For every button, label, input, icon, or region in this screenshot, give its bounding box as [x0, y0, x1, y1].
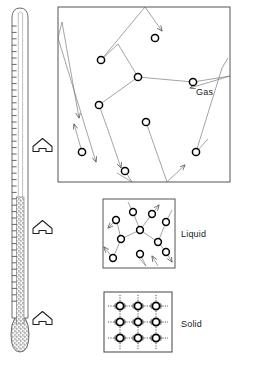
states-of-matter-figure: Gas: [0, 0, 256, 369]
liquid-label: Liquid: [181, 229, 206, 239]
solid-particle: [134, 318, 141, 325]
liquid-particle: [163, 249, 170, 256]
liquid-particle: [113, 217, 120, 224]
gas-container: Gas: [58, 7, 230, 182]
solid-particles: [116, 302, 159, 341]
heat-arrow-solid: [33, 312, 52, 325]
liquid-particle: [149, 211, 156, 218]
liquid-particle: [118, 236, 125, 243]
solid-particle: [134, 302, 141, 309]
gas-label: Gas: [196, 87, 213, 97]
gas-particle: [97, 56, 104, 63]
gas-particle: [121, 167, 128, 174]
solid-particle: [152, 318, 159, 325]
liquid-particle: [163, 219, 170, 226]
solid-particle: [152, 302, 159, 309]
solid-label: Solid: [181, 319, 202, 329]
thermometer-fill: [17, 197, 24, 324]
gas-particle: [95, 101, 102, 108]
gas-particle: [142, 118, 149, 125]
solid-particle: [152, 334, 159, 341]
liquid-particle: [137, 251, 144, 258]
diagram-canvas: Gas: [0, 0, 256, 369]
liquid-particle: [155, 239, 162, 246]
gas-particle: [134, 73, 141, 80]
solid-container: Solid: [104, 292, 202, 352]
gas-particle: [192, 148, 199, 155]
gas-particle: [78, 148, 85, 155]
solid-particle: [116, 302, 123, 309]
liquid-particle: [137, 227, 144, 234]
thermometer: [11, 8, 29, 352]
liquid-particle: [130, 209, 137, 216]
liquid-particle: [110, 255, 117, 262]
solid-particle: [134, 334, 141, 341]
gas-particle: [151, 34, 158, 41]
solid-particle: [116, 318, 123, 325]
heat-arrow-gas: [33, 139, 52, 152]
solid-particle: [116, 334, 123, 341]
heat-arrow-liquid: [33, 221, 52, 234]
gas-particle: [189, 78, 196, 85]
liquid-container: Liquid: [103, 199, 206, 268]
